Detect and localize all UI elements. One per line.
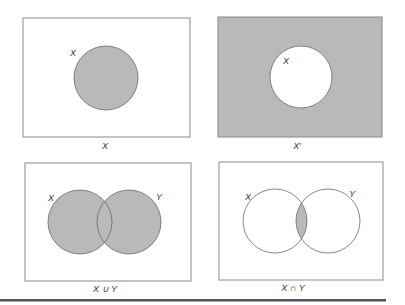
panel-set-x: X X <box>23 18 190 151</box>
set-y-label: Y <box>156 192 163 202</box>
set-x-circle <box>74 46 138 110</box>
panel-caption: X <box>101 141 109 151</box>
panel-caption: X ∩ Y <box>280 283 305 293</box>
set-x-label: X <box>47 193 55 203</box>
bottom-rule <box>0 299 386 302</box>
set-x-label: X <box>244 192 252 202</box>
set-x-label: X <box>282 56 290 66</box>
set-x-circle <box>270 46 332 108</box>
panel-caption: X′ <box>292 141 301 151</box>
panel-intersection: X Y X ∩ Y <box>219 162 383 293</box>
set-x-label: X <box>69 48 77 58</box>
set-y-label: Y <box>349 189 356 199</box>
panel-complement-x: X X′ <box>218 17 382 151</box>
panel-union: X Y X ∪ Y <box>25 163 191 294</box>
venn-diagram-figure: X X X X′ X Y X ∪ Y X Y X ∩ Y <box>0 0 405 305</box>
panel-caption: X ∪ Y <box>92 284 118 294</box>
